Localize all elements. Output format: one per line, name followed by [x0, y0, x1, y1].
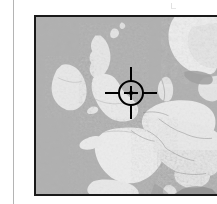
locator-map-panel[interactable]: [34, 15, 217, 196]
figure-caption: [0, 0, 1, 1]
map-region-label: Western Europe: [0, 0, 1, 1]
scan-speck-icon: [171, 3, 176, 9]
map-viewport: [36, 17, 217, 194]
reticle-location-label: Northern England / Irish Sea: [0, 0, 1, 1]
figure-root: Western Europe Northern England / Irish …: [0, 0, 217, 204]
shaded-relief-map-image: [36, 17, 217, 194]
left-margin-rule: [13, 0, 14, 204]
